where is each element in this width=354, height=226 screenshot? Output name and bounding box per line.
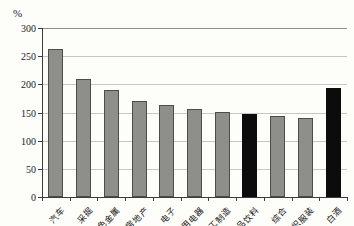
bar-汽车 [48, 49, 63, 197]
y-tick-label: 50 [10, 163, 36, 174]
x-axis-label-房地产: 房地产 [122, 203, 151, 226]
x-tick-mark [264, 198, 265, 201]
x-axis-label-食品饮料: 食品饮料 [226, 203, 261, 226]
y-axis-line [42, 28, 43, 197]
bar-食品饮料 [242, 114, 257, 197]
x-tick-mark [236, 198, 237, 201]
x-tick-mark [125, 198, 126, 201]
x-axis-label-家用电器: 家用电器 [171, 203, 206, 226]
bar-轻工制造 [215, 112, 230, 197]
bar-chart: % 050100150200250300汽车采掘有色金属房地产电子家用电器轻工制… [0, 0, 354, 226]
x-axis-label-有色金属: 有色金属 [87, 203, 122, 226]
x-tick-mark [42, 198, 43, 201]
gridline-300 [42, 28, 347, 29]
y-axis-unit-label: % [13, 7, 22, 19]
x-axis-label-纺织服装: 纺织服装 [282, 203, 317, 226]
x-tick-mark [153, 198, 154, 201]
y-tick-label: 200 [10, 79, 36, 90]
x-axis-label-综合: 综合 [267, 203, 289, 225]
bar-家用电器 [187, 109, 202, 197]
bar-采掘 [76, 79, 91, 197]
gridline-250 [42, 56, 347, 57]
y-tick-label: 150 [10, 107, 36, 118]
x-tick-mark [181, 198, 182, 201]
x-tick-mark [208, 198, 209, 201]
bar-白酒 [326, 88, 341, 197]
bar-有色金属 [104, 90, 119, 197]
x-axis-label-轻工制造: 轻工制造 [198, 203, 233, 226]
y-tick-label: 100 [10, 135, 36, 146]
bar-电子 [159, 105, 174, 197]
y-tick-label: 0 [10, 192, 36, 203]
bar-纺织服装 [298, 118, 313, 197]
x-axis-label-电子: 电子 [156, 203, 178, 225]
x-axis-label-采掘: 采掘 [73, 203, 95, 225]
x-tick-mark [347, 198, 348, 201]
bar-房地产 [132, 101, 147, 197]
bar-综合 [270, 116, 285, 197]
x-tick-mark [70, 198, 71, 201]
y-tick-label: 300 [10, 23, 36, 34]
x-axis-line [42, 197, 348, 198]
y-tick-label: 250 [10, 51, 36, 62]
x-axis-label-汽车: 汽车 [45, 203, 67, 225]
x-axis-label-白酒: 白酒 [323, 203, 345, 225]
x-tick-mark [97, 198, 98, 201]
x-tick-mark [292, 198, 293, 201]
x-tick-mark [319, 198, 320, 201]
